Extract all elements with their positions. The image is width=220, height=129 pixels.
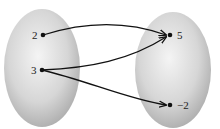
range-label-neg2: −2 (177, 99, 189, 111)
domain-label-3: 3 (31, 64, 37, 76)
range-label-5: 5 (177, 29, 183, 41)
range-point-neg2 (168, 103, 173, 108)
range-point-5 (168, 33, 173, 38)
domain-point-3 (40, 68, 45, 73)
mapping-diagram: 2 3 5 −2 (0, 0, 220, 129)
domain-point-2 (41, 33, 46, 38)
domain-label-2: 2 (32, 29, 38, 41)
